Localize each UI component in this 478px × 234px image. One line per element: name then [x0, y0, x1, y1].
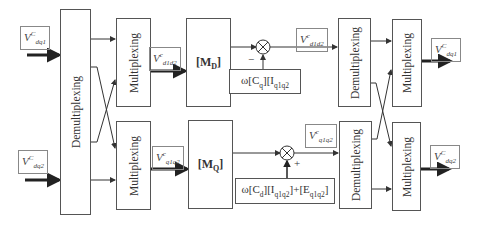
demux-right-top-block: Demultiplexing	[338, 18, 371, 107]
mux-out-top-block: Multiplexing	[392, 19, 422, 107]
mq-label: [MQ]	[189, 156, 232, 172]
feedback-bottom-label: ω[Cd][Iq1q2]+[Eq1q2]	[236, 183, 334, 198]
sign-minus-top: −	[248, 53, 254, 65]
signal-in2: VCdq2	[18, 150, 48, 174]
feedback-bottom-block: ω[Cd][Iq1q2]+[Eq1q2]	[235, 178, 335, 204]
summing-junction-top	[256, 40, 270, 54]
signal-in1: VCdq1	[20, 26, 50, 50]
feedback-top-label: ω[Cq][Iq1q2	[230, 74, 300, 89]
md-block: [MD]	[186, 18, 231, 107]
summing-junction-bottom	[280, 146, 294, 160]
demux-right-bottom-label: Demultiplexing	[350, 129, 362, 201]
mux-out-bottom-label: Multiplexing	[401, 136, 413, 196]
signal-vd-mid: Vcd1d2	[149, 47, 181, 71]
mux-bottom-block: Multiplexing	[116, 121, 151, 210]
demux-right-top-label: Demultiplexing	[349, 26, 361, 98]
signal-vq-mid: Vcq1q2	[152, 146, 184, 170]
mux-bottom-label: Multiplexing	[128, 135, 140, 195]
feedback-top-block: ω[Cq][Iq1q2	[229, 69, 301, 94]
demux-left-label: Demultiplexing	[70, 76, 82, 148]
sign-plus-bottom: +	[294, 157, 300, 169]
mux-out-bottom-block: Multiplexing	[392, 122, 421, 211]
signal-out1: VCdq1	[431, 38, 461, 62]
mux-top-label: Multiplexing	[128, 32, 140, 92]
mux-out-top-label: Multiplexing	[401, 33, 413, 93]
signal-vq-out: Vcq1q2	[305, 124, 337, 148]
md-label: [MD]	[187, 54, 230, 70]
mux-top-block: Multiplexing	[116, 18, 151, 107]
signal-vd-out: Vcd1d2	[296, 28, 328, 52]
demux-left-block: Demultiplexing	[60, 9, 91, 215]
signal-out2: VCdq2	[430, 145, 460, 169]
mq-block: [MQ]	[188, 120, 233, 209]
demux-right-bottom-block: Demultiplexing	[339, 121, 372, 209]
